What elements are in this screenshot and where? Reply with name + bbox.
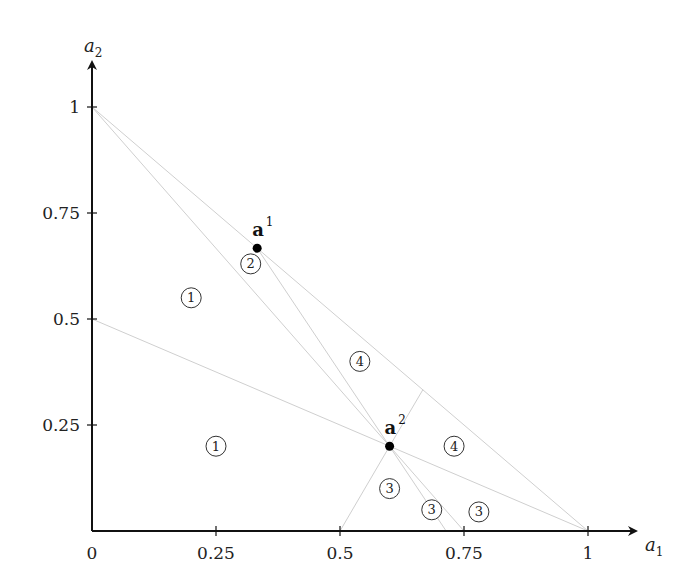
point-a2: a2: [385, 413, 406, 451]
x-tick-label: 0.25: [197, 543, 235, 563]
y-tick-label: 0.75: [42, 203, 80, 223]
point-label: a1: [252, 215, 273, 240]
x-tick-label: 0.75: [445, 543, 483, 563]
y-tick-label: 0.5: [53, 309, 80, 329]
partition-line: [92, 319, 390, 446]
region-label-2: 2: [241, 254, 261, 274]
points: a1a2: [252, 215, 406, 451]
axes: [92, 62, 636, 531]
svg-text:4: 4: [450, 439, 458, 454]
svg-text:3: 3: [475, 504, 483, 519]
x-tick-label: 0: [87, 543, 98, 563]
partition-line: [257, 248, 446, 531]
region-label-1: 1: [206, 436, 226, 456]
x-axis-label: a1: [645, 534, 663, 559]
axis-labels: a1 a2: [84, 35, 663, 559]
x-tick-label: 0.5: [326, 543, 353, 563]
region-labels: 11244333: [181, 254, 489, 522]
partition-line: [390, 446, 588, 531]
diagram-canvas: 00.250.50.7510.250.50.751 11244333 a1a2 …: [0, 0, 693, 584]
region-label-3: 3: [380, 479, 400, 499]
region-label-3: 3: [469, 502, 489, 522]
point-a1: a1: [252, 215, 273, 253]
svg-text:2: 2: [247, 256, 255, 271]
y-tick-label: 1: [69, 97, 80, 117]
partition-line: [92, 107, 464, 531]
region-label-4: 4: [350, 351, 370, 371]
svg-text:3: 3: [428, 502, 436, 517]
point-label: a2: [385, 413, 406, 438]
svg-text:1: 1: [187, 290, 195, 305]
svg-text:3: 3: [385, 481, 393, 496]
region-label-1: 1: [181, 288, 201, 308]
y-tick-label: 0.25: [42, 415, 80, 435]
svg-text:1: 1: [212, 439, 220, 454]
svg-text:4: 4: [356, 354, 364, 369]
point-marker: [253, 244, 262, 253]
partition-line: [92, 107, 588, 531]
point-marker: [385, 442, 394, 451]
region-label-4: 4: [444, 436, 464, 456]
axis-ticks: 00.250.50.7510.250.50.751: [42, 97, 593, 563]
partition-lines: [92, 107, 588, 531]
x-tick-label: 1: [583, 543, 594, 563]
y-axis-label: a2: [84, 35, 102, 60]
region-label-3: 3: [422, 500, 442, 520]
